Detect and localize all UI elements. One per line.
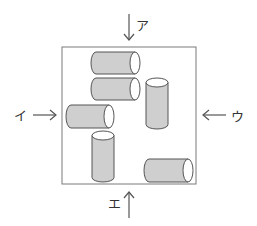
view-arrow-right: ウ <box>203 109 244 124</box>
cylinder-body <box>91 78 135 100</box>
view-arrow-left: イ <box>14 108 56 123</box>
cylinder-horizontal <box>91 78 140 100</box>
cylinder-end-cap <box>130 78 140 100</box>
cylinder-horizontal <box>66 105 114 128</box>
cylinder-horizontal <box>144 159 193 182</box>
view-arrow-top: ア <box>124 14 149 40</box>
view-label-i: イ <box>14 108 27 123</box>
cylinder-vertical <box>92 131 114 182</box>
cylinder-body <box>144 159 188 182</box>
view-label-e: エ <box>108 196 121 211</box>
cylinder-body <box>92 136 114 183</box>
cylinder-end-cap <box>130 52 140 74</box>
cylinder-end-cap <box>92 131 114 140</box>
cylinder-body <box>146 83 168 130</box>
view-label-a: ア <box>136 18 149 33</box>
cylinder-body <box>91 52 135 74</box>
cylinder-view-diagram: ア イ ウ エ <box>0 0 257 226</box>
cylinder-end-cap <box>183 159 193 182</box>
cylinder-vertical <box>146 78 168 129</box>
view-arrow-bottom: エ <box>108 192 134 218</box>
view-label-u: ウ <box>231 109 244 124</box>
cylinder-end-cap <box>146 78 168 87</box>
cylinder-body <box>66 105 109 128</box>
cylinder-end-cap <box>104 105 114 128</box>
cylinder-horizontal <box>91 52 140 74</box>
